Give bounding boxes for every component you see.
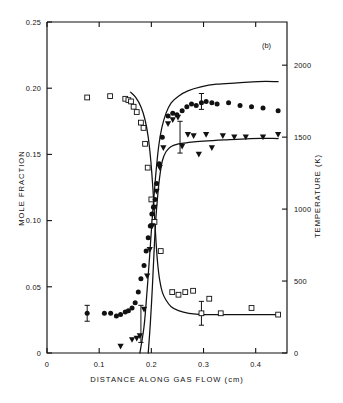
data-point-circle bbox=[249, 104, 254, 109]
data-point-circle bbox=[130, 305, 135, 310]
data-point-square bbox=[85, 95, 90, 100]
y2-axis-title: TEMPERATURE (K) bbox=[313, 154, 322, 238]
data-point-circle bbox=[261, 106, 266, 111]
y-tick-label: 0.25 bbox=[26, 18, 41, 27]
data-point-circle bbox=[209, 100, 214, 105]
data-point-circle bbox=[276, 108, 281, 113]
x-tick-label: 0.4 bbox=[250, 360, 261, 369]
data-point-square bbox=[134, 110, 139, 115]
data-point-square bbox=[158, 249, 163, 254]
data-point-circle bbox=[149, 211, 154, 216]
data-point-circle bbox=[102, 311, 107, 316]
y-tick-label: 0.20 bbox=[26, 84, 41, 93]
y2-tick-label: 2000 bbox=[294, 61, 311, 70]
data-point-square bbox=[145, 165, 150, 170]
panel-label: (b) bbox=[262, 41, 271, 50]
data-point-circle bbox=[118, 312, 123, 317]
y2-tick-label: 500 bbox=[294, 277, 307, 286]
data-point-square bbox=[191, 288, 196, 293]
y-tick-label: 0 bbox=[37, 349, 41, 358]
x-tick-label: 0.1 bbox=[94, 360, 105, 369]
data-point-circle bbox=[199, 100, 204, 105]
data-point-square bbox=[249, 306, 254, 311]
data-point-circle bbox=[180, 108, 185, 113]
x-tick-label: 0 bbox=[45, 360, 49, 369]
y2-tick-label: 1500 bbox=[294, 133, 311, 142]
data-point-square bbox=[170, 290, 175, 295]
x-tick-label: 0.2 bbox=[146, 360, 157, 369]
data-point-circle bbox=[166, 114, 171, 119]
data-point-circle bbox=[226, 100, 231, 105]
chart-svg: 00.10.20.30.400.050.100.150.200.25050010… bbox=[0, 0, 343, 403]
data-point-square bbox=[199, 311, 204, 316]
data-point-square bbox=[176, 292, 181, 297]
data-point-circle bbox=[160, 135, 165, 140]
data-point-circle bbox=[146, 235, 151, 240]
data-point-square bbox=[141, 126, 146, 131]
data-point-square bbox=[218, 311, 223, 316]
y2-tick-label: 0 bbox=[294, 349, 298, 358]
data-point-square bbox=[183, 290, 188, 295]
data-point-square bbox=[108, 94, 113, 99]
data-point-circle bbox=[136, 290, 141, 295]
data-point-circle bbox=[138, 276, 143, 281]
data-point-square bbox=[139, 120, 144, 125]
data-point-square bbox=[276, 312, 281, 317]
data-point-square bbox=[131, 104, 136, 109]
data-point-circle bbox=[108, 311, 113, 316]
y-tick-label: 0.10 bbox=[26, 216, 41, 225]
data-point-circle bbox=[154, 181, 159, 186]
data-point-square bbox=[207, 296, 212, 301]
data-point-square bbox=[129, 99, 134, 104]
y2-tick-label: 1000 bbox=[294, 205, 311, 214]
figure-background bbox=[0, 0, 343, 403]
y-tick-label: 0.15 bbox=[26, 150, 41, 159]
y-tick-label: 0.05 bbox=[26, 283, 41, 292]
data-point-circle bbox=[184, 104, 189, 109]
x-axis-title: DISTANCE ALONG GAS FLOW (cm) bbox=[90, 375, 244, 384]
data-point-circle bbox=[153, 197, 158, 202]
figure-panel-b: 00.10.20.30.400.050.100.150.200.25050010… bbox=[0, 0, 343, 403]
data-point-circle bbox=[215, 102, 220, 107]
data-point-circle bbox=[133, 300, 138, 305]
data-point-circle bbox=[204, 99, 209, 104]
data-point-circle bbox=[85, 311, 90, 316]
data-point-circle bbox=[194, 103, 199, 108]
data-point-square bbox=[143, 141, 148, 146]
x-tick-label: 0.3 bbox=[198, 360, 209, 369]
data-point-circle bbox=[142, 263, 147, 268]
y-axis-title: MOLE FRACTION bbox=[17, 150, 26, 225]
data-point-circle bbox=[238, 103, 243, 108]
data-point-circle bbox=[189, 102, 194, 107]
